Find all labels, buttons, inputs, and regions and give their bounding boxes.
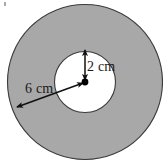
corner-artifact-speck: [4, 2, 6, 6]
center-dot: [82, 79, 89, 86]
inner-radius-label: 2 cm: [87, 60, 115, 74]
outer-radius-label: 6 cm: [25, 82, 53, 96]
annulus-figure: 2 cm 6 cm: [0, 0, 163, 165]
